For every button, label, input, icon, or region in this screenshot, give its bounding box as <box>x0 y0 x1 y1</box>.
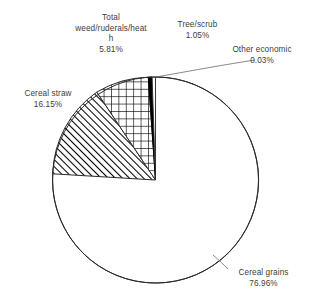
pie-label-other-economic: Other economic 0.03% <box>212 45 312 66</box>
pie-label-cereal-grains: Cereal grains 76.96% <box>216 268 311 289</box>
pie-label-weed-ruderals-heath: Total weed/ruderals/heat h 5.81% <box>55 13 167 55</box>
pie-chart: Total weed/ruderals/heat h 5.81% Tree/sc… <box>0 0 314 308</box>
pie-label-cereal-straw: Cereal straw 16.15% <box>2 89 94 110</box>
pie-label-tree-scrub: Tree/scrub 1.05% <box>160 20 235 41</box>
